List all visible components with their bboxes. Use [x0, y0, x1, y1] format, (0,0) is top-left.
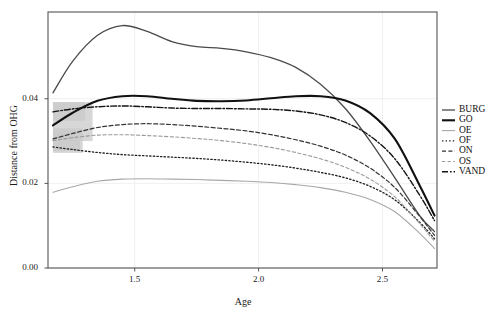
x-axis-title: Age: [198, 296, 288, 307]
x-tick-label: 2.5: [366, 274, 398, 284]
x-tick-label: 1.5: [119, 274, 151, 284]
legend-item-burg[interactable]: BURG: [459, 104, 485, 114]
y-tick-label: 0.04: [6, 93, 38, 103]
legend-item-os[interactable]: OS: [459, 156, 471, 166]
y-tick-label: 0.02: [6, 177, 38, 187]
legend-item-on[interactable]: ON: [459, 145, 473, 155]
y-tick-label: 0.00: [6, 262, 38, 272]
legend-item-oe[interactable]: OE: [459, 125, 472, 135]
line-chart-figure: [0, 0, 497, 315]
legend-item-vand[interactable]: VAND: [459, 166, 485, 176]
legend-item-go[interactable]: GO: [459, 114, 473, 124]
x-tick-label: 2.0: [243, 274, 275, 284]
y-axis-title: Distance from OHG: [8, 86, 19, 206]
legend-item-of[interactable]: OF: [459, 135, 471, 145]
